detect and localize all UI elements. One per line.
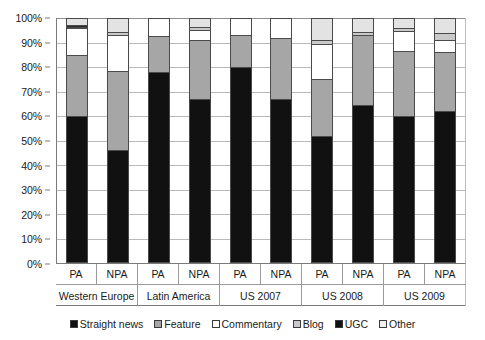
bar-segment[interactable] [434,111,456,263]
bar-segment[interactable] [189,40,211,99]
chart-legend: Straight newsFeatureCommentaryBlogUGCOth… [0,313,485,335]
bar-segment[interactable] [148,72,170,263]
legend-swatch-icon [379,320,387,328]
bar-segment[interactable] [352,18,374,31]
legend-item[interactable]: Commentary [212,318,282,330]
bar-segment[interactable] [230,67,252,263]
legend-label: Blog [303,318,324,330]
y-axis-tick-mark [45,264,50,265]
bar-slot [139,18,180,263]
legend-label: Straight news [80,318,144,330]
bar-stack[interactable] [434,18,456,263]
x-axis-category-label: NPA [179,264,220,284]
bar-segment[interactable] [189,30,211,40]
legend-item[interactable]: Other [379,318,415,330]
legend-item[interactable]: Feature [154,318,200,330]
bar-segment[interactable] [393,31,415,51]
legend-item[interactable]: Straight news [70,318,144,330]
legend-swatch-icon [212,320,220,328]
x-axis-group-label: US 2008 [302,285,384,306]
bar-segment[interactable] [311,18,333,40]
legend-swatch-icon [293,320,301,328]
y-axis-tick-label: 100% [16,12,42,24]
bar-slot [302,18,343,263]
bar-segment[interactable] [434,18,456,33]
y-axis: 0%10%20%30%40%50%60%70%80%90%100% [0,18,50,264]
x-axis-category-label: PA [56,264,97,284]
bar-stack[interactable] [270,18,292,263]
x-axis-group-label: US 2009 [384,285,466,306]
bar-segment[interactable] [230,35,252,67]
bar-segment[interactable] [107,35,129,71]
bar-stack[interactable] [107,18,129,263]
bar-segment[interactable] [393,116,415,263]
bar-stack[interactable] [393,18,415,263]
x-axis-category-label: NPA [261,264,302,284]
bar-segment[interactable] [352,35,374,105]
bar-slot [98,18,139,263]
bar-segment[interactable] [434,52,456,111]
bar-segment[interactable] [270,38,292,99]
bar-segment[interactable] [148,18,170,36]
bar-stack[interactable] [230,18,252,263]
bars-layer [57,18,465,263]
bar-slot [343,18,384,263]
x-axis-category-label: PA [138,264,179,284]
bar-stack[interactable] [352,18,374,263]
x-axis-subcategory-row: PANPAPANPAPANPAPANPAPANPA [56,264,466,285]
bar-slot [383,18,424,263]
bar-segment[interactable] [270,99,292,263]
bar-stack[interactable] [148,18,170,263]
bar-segment[interactable] [66,18,88,25]
bar-segment[interactable] [434,40,456,52]
x-axis-category-label: PA [220,264,261,284]
y-axis-tick-label: 80% [21,61,42,73]
x-axis-group-label: Western Europe [56,285,138,306]
bar-segment[interactable] [393,51,415,116]
y-axis-tick-label: 60% [21,110,42,122]
y-axis-tick-label: 10% [21,233,42,245]
y-axis-tick-label: 90% [21,37,42,49]
legend-item[interactable]: UGC [335,318,368,330]
y-axis-tick-mark [45,91,50,92]
bar-segment[interactable] [107,71,129,151]
bar-slot [57,18,98,263]
y-axis-tick-mark [45,190,50,191]
bar-segment[interactable] [107,150,129,263]
bar-segment[interactable] [107,18,129,31]
bar-segment[interactable] [393,18,415,28]
y-axis-tick-mark [45,214,50,215]
bar-segment[interactable] [311,79,333,135]
bar-segment[interactable] [270,18,292,38]
y-axis-tick-label: 50% [21,135,42,147]
bar-stack[interactable] [66,18,88,263]
bar-stack[interactable] [189,18,211,263]
bar-segment[interactable] [311,44,333,80]
bar-segment[interactable] [148,36,170,72]
bar-segment[interactable] [189,18,211,27]
bar-segment[interactable] [189,99,211,263]
x-axis-group-row: Western EuropeLatin AmericaUS 2007US 200… [56,285,466,306]
legend-swatch-icon [70,320,78,328]
x-axis-category-label: PA [384,264,425,284]
legend-label: Other [389,318,415,330]
legend-item[interactable]: Blog [293,318,324,330]
y-axis-tick-label: 30% [21,184,42,196]
y-axis-tick-label: 70% [21,86,42,98]
bar-segment[interactable] [311,136,333,263]
bar-segment[interactable] [230,18,252,35]
bar-segment[interactable] [66,116,88,263]
y-axis-tick-mark [45,42,50,43]
bar-segment[interactable] [66,55,88,116]
bar-slot [179,18,220,263]
y-axis-tick-label: 0% [27,258,42,270]
bar-segment[interactable] [66,28,88,55]
stacked-bar-chart: 0%10%20%30%40%50%60%70%80%90%100% PANPAP… [0,0,485,340]
x-axis: PANPAPANPAPANPAPANPAPANPA Western Europe… [56,264,466,306]
y-axis-tick-mark [45,18,50,19]
y-axis-tick-mark [45,67,50,68]
bar-stack[interactable] [311,18,333,263]
bar-slot [261,18,302,263]
bar-segment[interactable] [352,105,374,263]
bar-segment[interactable] [434,33,456,40]
